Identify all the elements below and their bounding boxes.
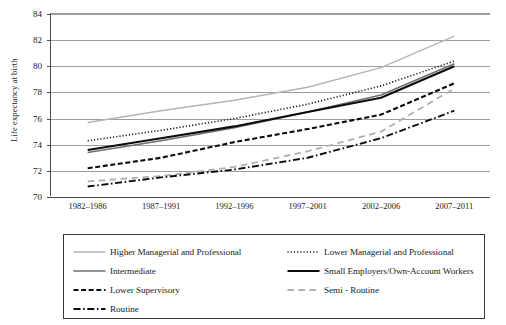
legend-item[interactable]: Semi - Routine <box>287 285 475 295</box>
legend-item[interactable]: Routine <box>73 304 287 314</box>
legend-grid: Higher Managerial and ProfessionalLower … <box>73 242 475 318</box>
x-tick-label: 1997–2001 <box>270 201 346 211</box>
legend-swatch <box>73 247 106 256</box>
y-tick-label: 76 <box>14 114 42 124</box>
legend-swatch <box>287 266 320 275</box>
x-tick-label: 2007–2011 <box>416 201 492 211</box>
series-line-2 <box>88 64 455 153</box>
y-tick-label: 82 <box>14 35 42 45</box>
legend-item[interactable]: Small Employers/Own-Account Workers <box>287 266 475 276</box>
x-tick-label: 1982–1986 <box>50 201 126 211</box>
legend-label: Lower Managerial and Professional <box>324 247 454 257</box>
chart-page: Life expectancy at birth 707274767880828… <box>0 0 506 325</box>
y-tick-label: 78 <box>14 87 42 97</box>
legend-swatch <box>73 266 106 275</box>
legend-item[interactable]: Lower Managerial and Professional <box>287 247 475 257</box>
x-tick-label: 1992–1996 <box>196 201 272 211</box>
series-line-4 <box>88 83 455 168</box>
legend-swatch <box>73 304 106 313</box>
y-tick-mark <box>47 197 51 198</box>
legend-item[interactable]: Intermediate <box>73 266 287 276</box>
series-line-3 <box>88 66 455 150</box>
legend-swatch <box>287 285 320 294</box>
y-tick-label: 74 <box>14 140 42 150</box>
x-tick-label: 1987–1991 <box>123 201 199 211</box>
series-lines <box>51 14 491 197</box>
series-line-0 <box>88 36 455 122</box>
y-tick-label: 70 <box>14 192 42 202</box>
legend-label: Small Employers/Own-Account Workers <box>324 266 473 276</box>
y-tick-label: 72 <box>14 166 42 176</box>
gridline <box>51 197 490 198</box>
series-line-6 <box>88 111 455 187</box>
line-chart: Life expectancy at birth 707274767880828… <box>0 0 506 228</box>
legend-item[interactable]: Higher Managerial and Professional <box>73 247 287 257</box>
legend-label: Routine <box>110 304 139 314</box>
legend-label: Semi - Routine <box>324 285 379 295</box>
x-tick-label: 2002–2006 <box>343 201 419 211</box>
legend-label: Higher Managerial and Professional <box>110 247 241 257</box>
legend-label: Intermediate <box>110 266 156 276</box>
plot-area: 7072747678808284 1982–19861987–19911992–… <box>50 13 490 196</box>
series-line-1 <box>88 61 455 141</box>
y-tick-label: 80 <box>14 61 42 71</box>
legend-swatch <box>287 247 320 256</box>
y-tick-label: 84 <box>14 9 42 19</box>
chart-legend: Higher Managerial and ProfessionalLower … <box>63 234 485 319</box>
legend-swatch <box>73 285 106 294</box>
legend-item[interactable]: Lower Supervisory <box>73 285 287 295</box>
legend-label: Lower Supervisory <box>110 285 180 295</box>
